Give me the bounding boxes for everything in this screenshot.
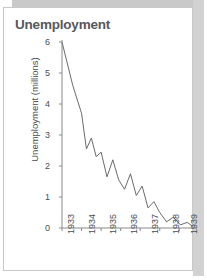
- chart-card: Unemployment: [3, 7, 193, 271]
- card-shadow-right: [193, 0, 204, 276]
- chart-figure: Unemployment Unemployment (millions) 6 5…: [0, 0, 207, 280]
- chart-title: Unemployment: [15, 17, 110, 32]
